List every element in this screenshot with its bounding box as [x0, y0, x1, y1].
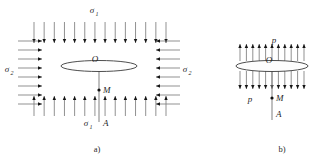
panel-a-stress-top-subscript: 1 [96, 11, 99, 17]
panel-b-caption: b) [278, 144, 285, 154]
panel-b-pressure-top-label: p [271, 35, 277, 45]
figure-background [0, 0, 322, 166]
panel-b-point-a-label: A [275, 109, 282, 119]
panel-b-center-label: O [266, 55, 273, 65]
panel-a-stress-left-symbol: σ [5, 64, 10, 74]
panel-a-stress-left-subscript: 2 [11, 70, 14, 76]
panel-b-point-m-dot [270, 96, 273, 99]
panel-a-stress-bottom-subscript: 1 [90, 124, 93, 130]
panel-a-stress-top-symbol: σ [90, 5, 95, 15]
panel-b-pressure-bottom-label: p [247, 94, 253, 104]
panel-a-caption: a) [94, 144, 101, 154]
panel-b-point-m-label: M [275, 93, 284, 103]
panel-a-stress-bottom-symbol: σ [84, 118, 89, 128]
panel-a-center-label: O [92, 54, 99, 64]
figure-root: O M A σ 1 σ 1 σ 2 σ 2 [0, 0, 322, 166]
panel-a-point-m-dot [97, 88, 100, 91]
panel-a-crack-plate [61, 61, 137, 72]
figure-canvas: O M A σ 1 σ 1 σ 2 σ 2 [0, 0, 322, 166]
panel-a-stress-right-subscript: 2 [189, 70, 192, 76]
panel-a-point-a-label: A [102, 118, 109, 128]
panel-a-point-m-label: M [102, 85, 111, 95]
panel-a-stress-right-symbol: σ [183, 64, 188, 74]
